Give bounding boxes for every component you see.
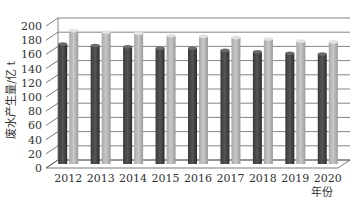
bar [156,48,165,164]
bar [220,50,229,164]
bar [329,42,338,164]
y-tick-label: 0 [35,162,42,175]
y-tick-label: 180 [21,34,42,47]
y-tick-label: 80 [28,105,42,118]
x-tick-label: 2018 [249,172,277,185]
bar [91,45,100,164]
y-tick-label: 120 [21,77,42,90]
x-tick-label: 2017 [216,172,244,185]
y-tick-label: 100 [21,91,42,104]
bar-chart: 020406080100120140160180200 2012 2013 20… [0,0,361,206]
y-tick-label: 140 [21,63,42,76]
bar [231,38,240,164]
bar [123,47,132,164]
x-tick-label: 2013 [87,172,115,185]
y-tick-label: 200 [21,20,42,33]
y-tick-label: 60 [28,119,42,132]
bar [199,36,208,164]
bar [285,53,294,164]
bar [188,48,197,164]
bar [58,44,67,164]
x-tick-label: 2016 [184,172,212,185]
x-tick-label: 2012 [54,172,82,185]
bar [264,39,273,164]
x-tick-label: 2015 [152,172,180,185]
bar [134,33,143,164]
y-tick-label: 160 [21,48,42,61]
bar [296,41,305,164]
y-tick-label: 20 [28,148,42,161]
y-axis-label: 废水产生量/亿 t [4,61,18,139]
bar [253,52,262,164]
x-axis-label: 年份 [311,185,333,199]
x-tick-label: 2019 [281,172,309,185]
bar [69,31,78,164]
bar [167,35,176,164]
x-tick-label: 2014 [119,172,147,185]
y-tick-label: 40 [28,134,42,147]
bar [102,32,111,164]
bar [318,54,327,164]
x-tick-label: 2020 [314,172,342,185]
